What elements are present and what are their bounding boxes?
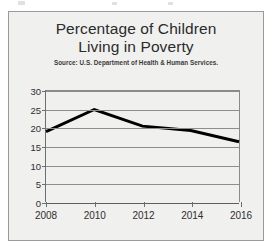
ytick-mark-10 (42, 166, 46, 167)
xtick-label-2008: 2008 (35, 210, 57, 221)
gridline-y-15 (46, 147, 239, 148)
gridline-y-5 (46, 184, 239, 185)
ytick-label-30: 30 (30, 86, 41, 97)
plot-area: 05101520253020082010201220142016 (45, 90, 240, 202)
gridline-y-0 (46, 203, 239, 204)
xtick-mark-2008 (46, 202, 47, 207)
ytick-label-15: 15 (30, 142, 41, 153)
ytick-label-0: 0 (36, 198, 41, 209)
chart-source-note: Source: U.S. Department of Health & Huma… (9, 59, 263, 67)
ytick-label-10: 10 (30, 160, 41, 171)
ytick-mark-15 (42, 147, 46, 148)
gridline-y-30 (46, 91, 239, 92)
xtick-label-2014: 2014 (181, 210, 203, 221)
chart-header: Percentage of Children Living in Poverty… (9, 20, 263, 67)
ytick-mark-20 (42, 128, 46, 129)
xtick-mark-2010 (95, 202, 96, 207)
chart-figure: Percentage of Children Living in Poverty… (8, 11, 264, 241)
data-line-0 (46, 110, 239, 142)
xtick-mark-2012 (144, 202, 145, 207)
gridline-y-20 (46, 128, 239, 129)
xtick-label-2016: 2016 (230, 210, 252, 221)
ytick-mark-5 (42, 184, 46, 185)
ytick-label-20: 20 (30, 123, 41, 134)
scan-artifact-strip (0, 0, 272, 11)
xtick-label-2012: 2012 (132, 210, 154, 221)
ytick-label-25: 25 (30, 104, 41, 115)
xtick-mark-2014 (192, 202, 193, 207)
ytick-mark-30 (42, 91, 46, 92)
xtick-mark-2016 (241, 202, 242, 207)
ytick-mark-25 (42, 110, 46, 111)
xtick-label-2010: 2010 (84, 210, 106, 221)
chart-title: Percentage of Children Living in Poverty (9, 20, 263, 56)
gridline-y-10 (46, 166, 239, 167)
gridline-y-25 (46, 110, 239, 111)
plot-wrapper: 05101520253020082010201220142016 (9, 86, 265, 236)
ytick-label-5: 5 (36, 179, 41, 190)
